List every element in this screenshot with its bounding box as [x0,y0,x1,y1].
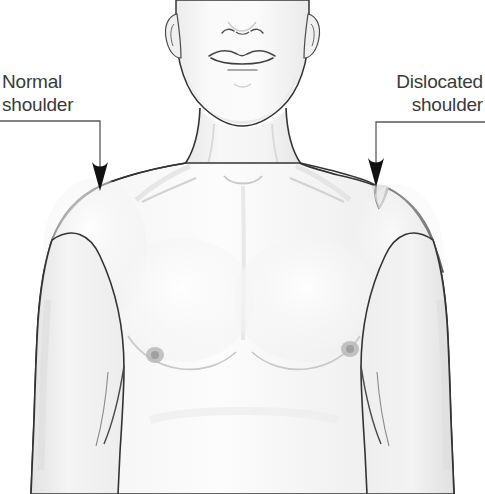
dislocated-shoulder-leader-line [376,122,485,164]
medical-illustration: Normal shoulder Dislocated shoulder [0,0,485,494]
normal-shoulder-leader-line [0,121,100,168]
normal-shoulder-label: Normal shoulder [2,70,73,116]
dislocated-shoulder-label: Dislocated shoulder [396,70,483,116]
right-nipple-center [346,345,354,353]
left-pectoral-highlight [110,238,254,362]
head-shape [176,0,309,126]
left-nipple-center [151,351,159,359]
head-group [165,0,319,126]
